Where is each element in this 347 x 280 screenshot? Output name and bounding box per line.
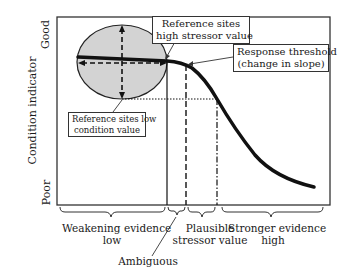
- y-axis-top-label: Good: [39, 20, 52, 50]
- y-axis-label: Condition indicator: [26, 56, 39, 166]
- brace-weakening: [60, 207, 165, 217]
- brace-stronger: [222, 207, 323, 217]
- y-axis-bottom-label: Poor: [40, 178, 53, 208]
- weakening-evidence-label: Weakening evidence low: [62, 222, 162, 246]
- leader-threshold: [190, 57, 233, 64]
- response-threshold-box: Response threshold (change in slope): [233, 44, 329, 72]
- ambiguous-label: Ambiguous: [118, 255, 178, 267]
- brace-plausible: [188, 207, 215, 217]
- ref-high-stressor-box: Reference sites high stressor value: [152, 16, 250, 44]
- leader-low-condition: [113, 100, 122, 112]
- ref-low-condition-box: Reference sites low condition value: [68, 112, 146, 137]
- brace-ambiguous: [168, 207, 185, 215]
- stronger-evidence-label: Stronger evidence high: [228, 222, 318, 246]
